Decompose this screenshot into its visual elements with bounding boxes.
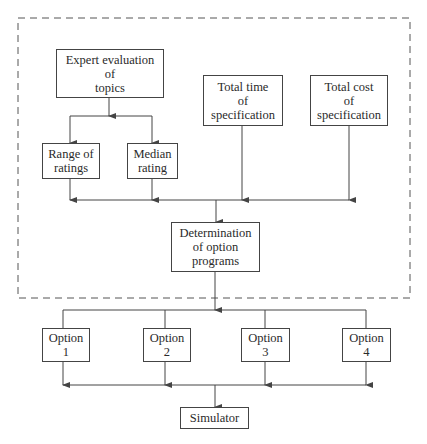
node-label: Total time of specification <box>211 80 275 122</box>
node-determination: Determination of option programs <box>171 222 260 272</box>
node-label: Median rating <box>133 147 171 175</box>
node-label: Option 1 <box>49 331 84 359</box>
node-median-rating: Median rating <box>127 143 178 179</box>
node-option-3: Option 3 <box>241 328 290 362</box>
node-total-time: Total time of specification <box>203 75 283 126</box>
node-option-2: Option 2 <box>143 328 191 362</box>
node-range-of-ratings: Range of ratings <box>42 143 100 179</box>
node-label: Simulator <box>190 411 239 425</box>
node-label: Option 2 <box>150 331 185 359</box>
node-label: Expert evaluation of topics <box>66 53 155 95</box>
node-option-4: Option 4 <box>342 328 391 362</box>
node-label: Total cost of specification <box>317 80 381 122</box>
node-simulator: Simulator <box>180 407 249 429</box>
node-label: Range of ratings <box>48 147 93 175</box>
node-expert-evaluation: Expert evaluation of topics <box>56 49 164 98</box>
node-label: Option 3 <box>248 331 283 359</box>
node-label: Option 4 <box>349 331 384 359</box>
node-total-cost: Total cost of specification <box>310 75 388 126</box>
node-label: Determination of option programs <box>179 226 251 268</box>
node-option-1: Option 1 <box>42 328 90 362</box>
